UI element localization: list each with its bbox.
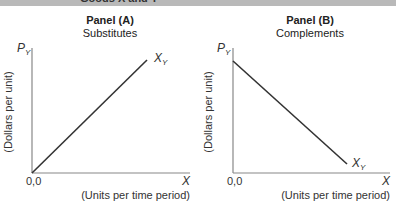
panel-b-x-symbol: X	[381, 174, 391, 188]
panel-b-curve-label: XY	[351, 156, 366, 172]
panel-a-x-symbol: X	[181, 174, 191, 188]
panel-b-chart: PY (Dollars per unit) 0,0 X (Units per t…	[202, 41, 391, 201]
panel-b-py-label: PY	[217, 41, 231, 57]
panel-a-curve-label: XY	[153, 51, 168, 67]
charts-canvas: PY (Dollars per unit) 0,0 X (Units per t…	[0, 0, 396, 204]
panel-a-x-label: (Units per time period)	[81, 189, 190, 201]
panel-b-curve	[233, 61, 347, 164]
panel-a-origin: 0,0	[26, 175, 41, 187]
panel-b-x-label: (Units per time period)	[281, 189, 390, 201]
panel-b-y-label: (Dollars per unit)	[202, 71, 214, 152]
panel-b-origin: 0,0	[227, 175, 242, 187]
panel-a-py-label: PY	[17, 41, 31, 57]
panel-a-curve	[32, 60, 147, 173]
panel-a-chart: PY (Dollars per unit) 0,0 X (Units per t…	[2, 41, 191, 201]
panel-a-y-label: (Dollars per unit)	[2, 71, 14, 152]
